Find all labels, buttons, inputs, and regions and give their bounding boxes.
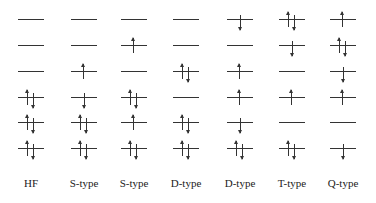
orbital-level <box>330 143 356 155</box>
level-line <box>330 122 356 123</box>
configuration-column <box>71 0 121 203</box>
spin-down-arrow-icon <box>188 67 189 82</box>
orbital-level <box>227 117 253 129</box>
spin-up-arrow-icon <box>182 64 183 79</box>
orbital-level <box>227 14 253 26</box>
level-line <box>121 148 147 149</box>
orbital-level <box>330 14 356 26</box>
spin-down-arrow-icon <box>345 41 346 56</box>
orbital-level <box>121 66 147 78</box>
spin-up-arrow-icon <box>182 141 183 156</box>
configuration-label: Q-type <box>328 177 359 189</box>
orbital-level <box>227 143 253 155</box>
level-line <box>18 19 44 20</box>
level-line <box>279 97 305 98</box>
spin-up-arrow-icon <box>27 115 28 130</box>
orbital-level <box>173 40 199 52</box>
orbital-level <box>71 92 97 104</box>
level-line <box>173 97 199 98</box>
level-line <box>330 45 356 46</box>
orbital-level <box>279 66 305 78</box>
level-line <box>121 71 147 72</box>
spin-up-arrow-icon <box>342 12 343 27</box>
orbital-level <box>71 143 97 155</box>
orbital-level <box>121 40 147 52</box>
spin-down-arrow-icon <box>242 144 243 159</box>
spin-down-arrow-icon <box>86 144 87 159</box>
spin-down-arrow-icon <box>294 15 295 30</box>
orbital-level <box>18 143 44 155</box>
spin-down-arrow-icon <box>292 41 293 56</box>
orbital-level <box>18 40 44 52</box>
level-line <box>279 148 305 149</box>
configuration-label: T-type <box>278 177 306 189</box>
orbital-level <box>173 92 199 104</box>
configuration-label: S-type <box>70 177 99 189</box>
level-line <box>227 97 253 98</box>
level-line <box>279 71 305 72</box>
orbital-level <box>279 92 305 104</box>
orbital-level <box>227 66 253 78</box>
configuration-column <box>18 0 68 203</box>
orbital-level <box>330 40 356 52</box>
spin-up-arrow-icon <box>239 64 240 79</box>
spin-up-arrow-icon <box>133 115 134 130</box>
level-line <box>227 45 253 46</box>
level-line <box>121 19 147 20</box>
level-line <box>71 122 97 123</box>
spin-up-arrow-icon <box>80 115 81 130</box>
level-line <box>279 122 305 123</box>
orbital-level <box>279 143 305 155</box>
configuration-label: D-type <box>171 177 202 189</box>
configuration-label: HF <box>24 177 38 189</box>
level-line <box>121 122 147 123</box>
level-line <box>330 19 356 20</box>
spin-up-arrow-icon <box>339 38 340 53</box>
level-line <box>18 148 44 149</box>
level-line <box>71 148 97 149</box>
spin-down-arrow-icon <box>188 118 189 133</box>
level-line <box>71 19 97 20</box>
spin-up-arrow-icon <box>182 115 183 130</box>
orbital-level <box>173 143 199 155</box>
orbital-level <box>18 117 44 129</box>
orbital-level <box>71 40 97 52</box>
orbital-level <box>121 117 147 129</box>
spin-down-arrow-icon <box>86 118 87 133</box>
spin-up-arrow-icon <box>80 141 81 156</box>
spin-up-arrow-icon <box>288 141 289 156</box>
orbital-level <box>227 92 253 104</box>
level-line <box>173 45 199 46</box>
orbital-level <box>71 117 97 129</box>
orbital-level <box>227 40 253 52</box>
level-line <box>173 71 199 72</box>
spin-down-arrow-icon <box>84 93 85 108</box>
spin-up-arrow-icon <box>130 90 131 105</box>
spin-down-arrow-icon <box>136 144 137 159</box>
orbital-level <box>173 117 199 129</box>
orbital-level <box>330 66 356 78</box>
level-line <box>227 148 253 149</box>
level-line <box>71 71 97 72</box>
spin-down-arrow-icon <box>343 67 344 82</box>
spin-up-arrow-icon <box>236 141 237 156</box>
spin-down-arrow-icon <box>240 15 241 30</box>
spin-down-arrow-icon <box>136 93 137 108</box>
orbital-level <box>279 40 305 52</box>
level-line <box>173 122 199 123</box>
spin-down-arrow-icon <box>343 144 344 159</box>
configuration-label: D-type <box>225 177 256 189</box>
configuration-column <box>227 0 277 203</box>
orbital-level <box>330 92 356 104</box>
level-line <box>227 71 253 72</box>
level-line <box>71 45 97 46</box>
level-line <box>279 19 305 20</box>
spin-up-arrow-icon <box>27 90 28 105</box>
configuration-column <box>121 0 171 203</box>
level-line <box>330 97 356 98</box>
level-line <box>173 19 199 20</box>
orbital-level <box>279 14 305 26</box>
orbital-level <box>173 14 199 26</box>
orbital-level <box>330 117 356 129</box>
orbital-level <box>18 14 44 26</box>
